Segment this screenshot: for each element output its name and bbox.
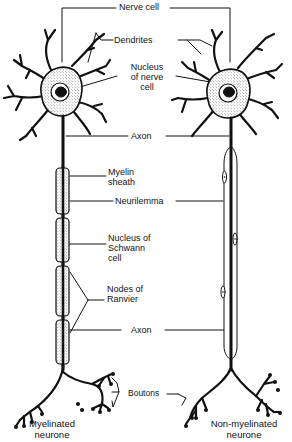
label-axon-bottom: Axon: [131, 325, 152, 335]
label-nerve-cell: Nerve cell: [119, 2, 159, 12]
label-nucleus-of-schwann-cell: Nucleus of Schwann cell: [108, 233, 151, 263]
caption-non-myelinated-neurone: Non-myelinated neurone: [196, 418, 292, 440]
right-nucleus: [224, 87, 235, 97]
label-boutons: Boutons: [128, 388, 159, 398]
label-dendrites: Dendrites: [114, 35, 153, 45]
label-nucleus-of-nerve-cell: Nucleus of nerve cell: [119, 62, 175, 92]
myelinated-neurone: [4, 30, 115, 429]
label-neurilemma: Neurilemma: [115, 196, 164, 206]
label-axon-top: Axon: [131, 131, 152, 141]
label-myelin-sheath: Myelin sheath: [108, 167, 135, 187]
caption-myelinated-neurone: Myelinated neurone: [12, 418, 92, 440]
left-nucleus: [56, 87, 67, 97]
label-nodes-of-ranvier: Nodes of Ranvier: [107, 284, 143, 304]
right-terminals: [186, 368, 280, 424]
non-myelinated-neurone: [172, 30, 282, 428]
